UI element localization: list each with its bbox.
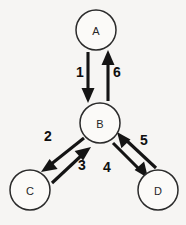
diagram-canvas: A B C D 1 6 2 3 4 5 [0, 0, 186, 225]
edge-line [113, 143, 140, 170]
node-d-label: D [154, 185, 162, 197]
edge-label-3: 3 [78, 157, 86, 173]
node-a-label: A [92, 25, 100, 37]
node-c[interactable]: C [10, 170, 50, 210]
arrowhead-up-left-icon [117, 132, 131, 148]
arrowhead-down-icon [82, 88, 95, 103]
edge-label-6: 6 [113, 64, 121, 80]
edge-label-5: 5 [140, 132, 148, 148]
edge-label-2: 2 [44, 128, 52, 144]
node-group: A B C D [10, 10, 178, 210]
graph-diagram: A B C D 1 6 2 3 4 5 [0, 0, 186, 225]
node-a[interactable]: A [76, 10, 116, 50]
edge-label-4: 4 [103, 159, 111, 175]
edge-b-to-d [113, 143, 148, 178]
node-b[interactable]: B [80, 103, 120, 143]
edge-d-to-b [117, 132, 156, 168]
arrowhead-up-icon [102, 50, 115, 65]
node-d[interactable]: D [138, 170, 178, 210]
node-b-label: B [96, 118, 104, 130]
edge-label-1: 1 [76, 64, 84, 80]
node-c-label: C [26, 185, 34, 197]
